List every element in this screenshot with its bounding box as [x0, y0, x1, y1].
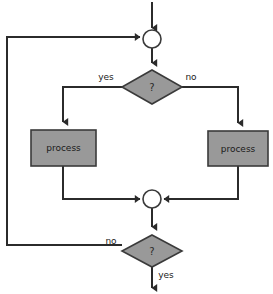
process-node-left-label: process [46, 143, 81, 153]
edge-label-no-bottom: no [105, 236, 117, 246]
edge-label-yes-bottom: yes [158, 270, 174, 280]
merge-node-top [143, 30, 161, 48]
edge-label-no-top: no [185, 72, 197, 82]
edge-decision-top-no-to-process-right [182, 87, 238, 123]
decision-node-bottom-label: ? [149, 246, 154, 257]
edge-process-right-to-merge-bottom [164, 166, 238, 199]
merge-node-bottom [143, 190, 161, 208]
flowchart-diagram: ? process process ? yes no no yes [0, 0, 273, 294]
edge-label-yes-top: yes [98, 72, 114, 82]
edge-process-left-to-merge-bottom [63, 166, 140, 199]
edge-decision-top-yes-to-process-left [63, 87, 122, 122]
process-node-right-label: process [221, 144, 256, 154]
flowchart-svg: ? process process ? yes no no yes [0, 0, 273, 294]
decision-node-top-label: ? [149, 82, 154, 93]
